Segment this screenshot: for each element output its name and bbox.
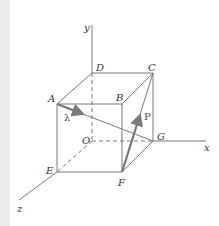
- label-C: C: [148, 62, 156, 73]
- label-G: G: [157, 131, 165, 142]
- y-axis-label: y: [83, 22, 90, 33]
- label-P: P: [144, 111, 151, 122]
- label-O: O: [82, 135, 90, 146]
- x-axis-label: x: [204, 142, 210, 153]
- label-B: B: [115, 92, 123, 103]
- label-F: F: [117, 177, 126, 188]
- label-A: A: [47, 93, 55, 104]
- label-E: E: [45, 165, 54, 176]
- z-axis-label: z: [16, 203, 23, 214]
- z-axis: [19, 172, 57, 200]
- edge-AD: [57, 73, 92, 104]
- label-lambda: λ: [64, 112, 71, 123]
- label-D: D: [95, 62, 104, 73]
- cube-diagram: y x z D C A B O G E F λ P: [0, 0, 219, 226]
